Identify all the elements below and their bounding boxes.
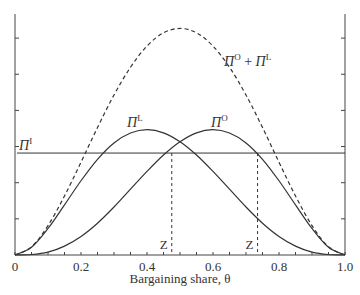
axes xyxy=(15,14,345,255)
pi-o-curve xyxy=(15,130,345,255)
curve-labels: ΠLΠOΠO + ΠLΠI xyxy=(18,52,271,153)
x-tick-label: 0 xyxy=(12,259,19,274)
pi-l-curve xyxy=(15,130,345,255)
z-label: Z xyxy=(246,237,254,252)
z-label: Z xyxy=(160,237,168,252)
pi-sum-label: ΠO + ΠL xyxy=(223,52,271,69)
x-tick-label: 1.0 xyxy=(337,259,353,274)
x-ticks xyxy=(15,252,345,255)
chart: 00.20.40.60.81.0 ZZ ΠLΠOΠO + ΠLΠI Bargai… xyxy=(0,0,360,295)
pi-o-label: ΠO xyxy=(210,113,228,130)
x-tick-label: 0.8 xyxy=(271,259,287,274)
pi-l-label: ΠL xyxy=(126,113,143,130)
x-tick-label: 0.2 xyxy=(73,259,89,274)
x-axis-label: Bargaining share, θ xyxy=(130,271,231,286)
pi-i-label: ΠI xyxy=(18,136,32,153)
y-ticks xyxy=(15,38,345,219)
curves xyxy=(15,28,345,255)
